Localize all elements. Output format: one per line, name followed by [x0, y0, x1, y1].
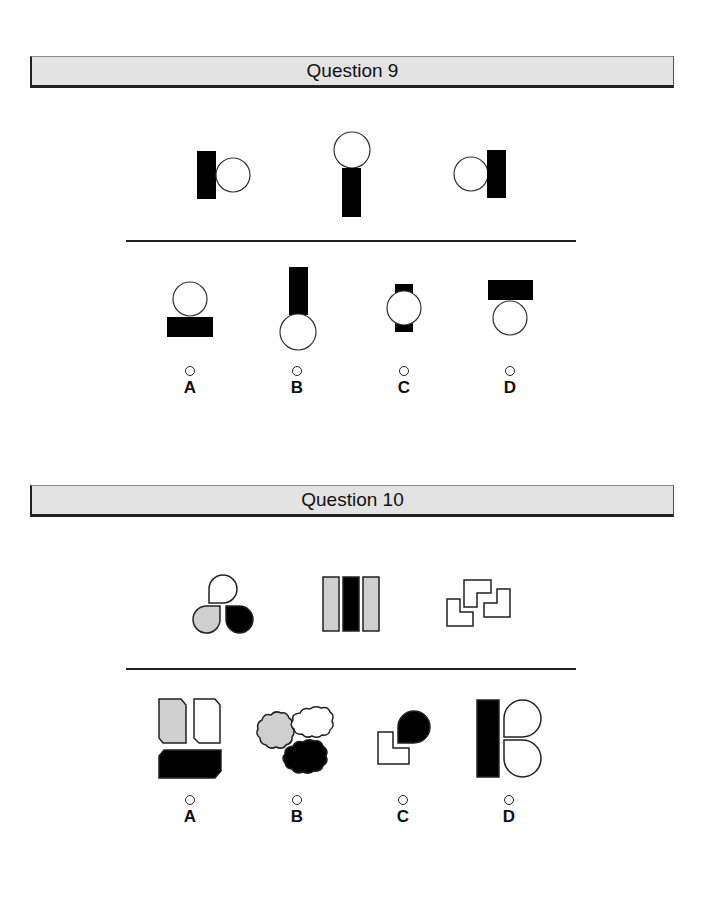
q9-option-c-label: C — [384, 379, 424, 397]
q10-option-c-radio[interactable] — [398, 795, 408, 805]
q10-option-d[interactable]: D — [489, 795, 529, 826]
q10-option-b[interactable]: B — [277, 795, 317, 826]
q10-option-a-figure — [159, 699, 221, 778]
q9-option-d[interactable]: D — [490, 366, 530, 397]
q9-option-a-figure — [167, 282, 213, 337]
q10-sequence-figure-2-bars — [323, 577, 379, 631]
q10-option-c-figure — [378, 711, 430, 764]
q9-option-a-radio[interactable] — [185, 366, 195, 376]
q10-option-b-figure-clouds — [257, 707, 333, 774]
q9-option-b-label: B — [277, 379, 317, 397]
q10-sequence-figure-1-teardrops — [193, 575, 253, 633]
q10-option-c[interactable]: C — [383, 795, 423, 826]
q9-option-d-label: D — [490, 379, 530, 397]
q10-sequence-figure-3-l-shapes — [447, 580, 510, 626]
q9-sequence-figure-3 — [454, 150, 506, 198]
q9-option-b-radio[interactable] — [292, 366, 302, 376]
q10-option-a-label: A — [170, 808, 210, 826]
q10-option-b-radio[interactable] — [292, 795, 302, 805]
q9-option-c[interactable]: C — [384, 366, 424, 397]
q10-option-d-figure — [477, 700, 541, 777]
q10-option-a[interactable]: A — [170, 795, 210, 826]
q9-option-a[interactable]: A — [170, 366, 210, 397]
q9-option-a-label: A — [170, 379, 210, 397]
q10-option-a-radio[interactable] — [185, 795, 195, 805]
q9-option-c-radio[interactable] — [399, 366, 409, 376]
q9-sequence-figure-2 — [334, 132, 370, 217]
q10-option-c-label: C — [383, 808, 423, 826]
q9-option-d-radio[interactable] — [505, 366, 515, 376]
q10-option-d-label: D — [489, 808, 529, 826]
q9-option-b-figure — [280, 267, 316, 350]
q9-option-b[interactable]: B — [277, 366, 317, 397]
q10-option-d-radio[interactable] — [504, 795, 514, 805]
q9-sequence-figure-1 — [197, 151, 250, 199]
figures-canvas — [0, 0, 710, 899]
q10-option-b-label: B — [277, 808, 317, 826]
q9-option-c-figure — [387, 284, 421, 332]
q9-option-d-figure — [488, 280, 533, 335]
